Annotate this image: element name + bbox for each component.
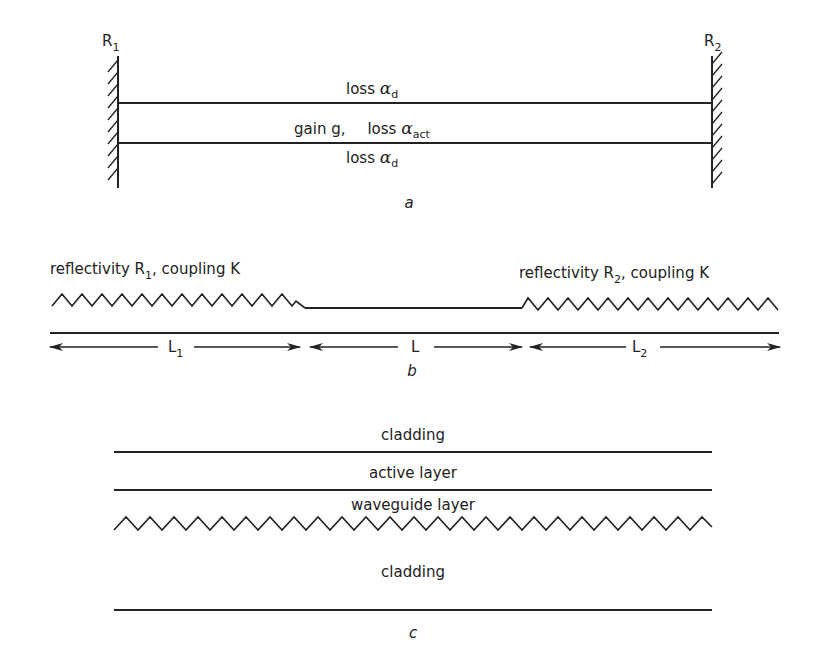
top-cladding-loss-label: loss αd [346, 78, 398, 101]
layer-label-active: active layer [369, 464, 458, 482]
layer-label-top-cladding: cladding [381, 426, 445, 444]
bottom-cladding-loss-label: loss αd [346, 147, 398, 170]
panel-b-caption: b [407, 362, 417, 380]
grating-corrugation-zigzag [114, 517, 712, 530]
diagram-canvas: R1 R2 loss αd gain g,loss αact loss αd a… [0, 0, 820, 662]
active-region-label: gain g,loss αact [294, 118, 430, 141]
left-grating-label: reflectivity R1, coupling K [50, 260, 241, 282]
dim-l-label: L [411, 338, 420, 356]
right-grating-zigzag [522, 298, 778, 310]
panel-c-caption: c [409, 624, 418, 642]
layer-label-waveguide: waveguide layer [351, 496, 476, 514]
layer-label-bottom-cladding: cladding [381, 563, 445, 581]
panel-b-dbr-laser: reflectivity R1, coupling K reflectivity… [50, 260, 780, 380]
right-grating-label: reflectivity R2, coupling K [519, 264, 710, 286]
mirror-left-icon [108, 56, 118, 188]
panel-a-caption: a [404, 194, 413, 212]
panel-a-fabry-perot: R1 R2 loss αd gain g,loss αact loss αd a [102, 32, 722, 212]
dim-l1-label: L1 [168, 338, 183, 360]
mirror-left-label: R1 [102, 32, 119, 54]
left-grating-zigzag [52, 294, 305, 308]
dim-l2-label: L2 [632, 338, 647, 360]
mirror-right-label: R2 [704, 32, 721, 54]
mirror-right-icon [712, 52, 722, 188]
panel-c-dfb-layers: cladding active layer waveguide layer cl… [114, 426, 712, 642]
